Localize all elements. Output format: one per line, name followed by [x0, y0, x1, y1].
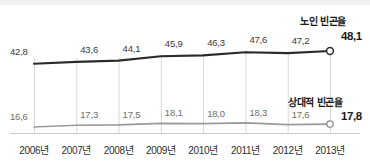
data-label: 17,5 — [123, 109, 141, 120]
series-line-elderly-poverty — [34, 51, 330, 64]
end-marker-relative-poverty — [327, 121, 333, 127]
x-axis-tick-5: 2011년 — [231, 142, 260, 157]
data-label: 45,9 — [165, 38, 183, 49]
data-label: 18,3 — [249, 107, 267, 118]
end-value-elderly-poverty: 48,1 — [341, 30, 362, 42]
end-marker-elderly-poverty — [327, 48, 334, 55]
x-axis-tick-4: 2010년 — [188, 142, 218, 157]
x-axis-tick-2: 2008년 — [104, 142, 134, 157]
series-label-elderly-poverty: 노인 빈곤율 — [300, 13, 346, 28]
data-label: 43,6 — [80, 44, 98, 55]
data-label: 18,0 — [207, 108, 225, 119]
data-label: 46,3 — [207, 37, 225, 48]
end-value-relative-poverty: 17,8 — [341, 110, 362, 122]
x-axis-tick-3: 2009년 — [146, 142, 176, 157]
x-axis-tick-7: 2013년 — [315, 142, 345, 157]
data-label: 47,2 — [292, 35, 310, 46]
data-label: 47,6 — [249, 34, 267, 45]
x-axis-tick-0: 2006년 — [19, 142, 49, 157]
x-axis-tick-6: 2012년 — [273, 142, 303, 157]
data-label: 17,6 — [292, 109, 310, 120]
poverty-rate-line-chart: 42,843,644,145,946,347,647,2 16,617,317,… — [0, 0, 370, 163]
data-label: 17,3 — [80, 109, 98, 120]
series-label-relative-poverty: 상대적 빈곤율 — [288, 94, 343, 109]
data-label: 44,1 — [123, 43, 141, 54]
x-axis-tick-1: 2007년 — [61, 142, 91, 157]
data-label: 42,8 — [10, 46, 28, 57]
data-label: 18,1 — [165, 107, 183, 118]
data-label: 16,6 — [10, 111, 28, 122]
series-line-relative-poverty — [34, 123, 330, 127]
